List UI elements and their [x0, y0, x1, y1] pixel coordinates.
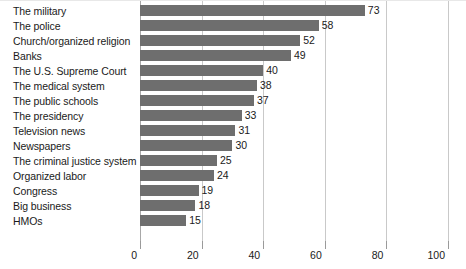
x-tick-label: 100 [427, 249, 448, 261]
x-tick-mark-80 [386, 241, 387, 249]
x-tick-mark-20 [202, 241, 203, 249]
bar [140, 140, 232, 151]
bar [140, 80, 257, 91]
bar [140, 125, 235, 136]
bar [140, 50, 291, 61]
bar [140, 35, 300, 46]
bar-row: 19 [140, 184, 448, 199]
x-axis: 020406080100 [140, 241, 448, 269]
x-tick-mark-0 [140, 241, 141, 249]
x-tick-mark-100 [448, 241, 449, 249]
category-label: HMOs [13, 214, 136, 229]
x-tick-mark-60 [325, 241, 326, 249]
category-label: The criminal justice system [13, 154, 136, 169]
bar-row: 52 [140, 34, 448, 49]
bar-value-label: 38 [257, 79, 272, 92]
category-label: Television news [13, 124, 136, 139]
bar [140, 200, 195, 211]
bar-row: 24 [140, 169, 448, 184]
bar-value-label: 73 [365, 4, 380, 17]
bar-value-label: 19 [199, 184, 214, 197]
plot-area: 735852494038373331302524191815 [140, 1, 448, 241]
category-label: Church/organized religion [13, 34, 136, 49]
category-label: Organized labor [13, 169, 136, 184]
bar [140, 65, 263, 76]
bar-row: 40 [140, 64, 448, 79]
bar-row: 18 [140, 199, 448, 214]
category-label: The police [13, 19, 136, 34]
bar [140, 5, 365, 16]
category-label: Banks [13, 49, 136, 64]
category-label: The military [13, 4, 136, 19]
bar [140, 170, 214, 181]
bar-value-label: 37 [254, 94, 269, 107]
bar-row: 58 [140, 19, 448, 34]
bar [140, 95, 254, 106]
bar-value-label: 52 [300, 34, 315, 47]
category-label: The public schools [13, 94, 136, 109]
bar-row: 33 [140, 109, 448, 124]
bar-row: 37 [140, 94, 448, 109]
bar-value-label: 15 [186, 214, 201, 227]
bar-value-label: 24 [214, 169, 229, 182]
bar [140, 185, 199, 196]
bar [140, 110, 242, 121]
bar [140, 215, 186, 226]
bar-row: 73 [140, 4, 448, 19]
bar-row: 25 [140, 154, 448, 169]
bar-row: 31 [140, 124, 448, 139]
x-tick-label: 60 [310, 249, 325, 261]
bar-value-label: 58 [319, 19, 334, 32]
x-tick-label: 80 [372, 249, 387, 261]
bar-value-label: 31 [235, 124, 250, 137]
category-label: The medical system [13, 79, 136, 94]
category-label: Newspapers [13, 139, 136, 154]
bar-value-label: 30 [232, 139, 247, 152]
x-tick-label: 20 [187, 249, 202, 261]
bar-row: 15 [140, 214, 448, 229]
bar-value-label: 25 [217, 154, 232, 167]
bar-value-label: 49 [291, 49, 306, 62]
bar [140, 155, 217, 166]
x-tick-label: 0 [131, 249, 140, 261]
category-label: Big business [13, 199, 136, 214]
bar-row: 30 [140, 139, 448, 154]
bar-value-label: 33 [242, 109, 257, 122]
category-label-column: The militaryThe policeChurch/organized r… [0, 1, 136, 241]
bar-row: 38 [140, 79, 448, 94]
bar-chart: The militaryThe policeChurch/organized r… [0, 0, 466, 269]
category-label: The presidency [13, 109, 136, 124]
bar [140, 20, 319, 31]
bar-value-label: 18 [195, 199, 210, 212]
x-tick-mark-40 [263, 241, 264, 249]
bar-value-label: 40 [263, 64, 278, 77]
gridline-100 [448, 1, 449, 241]
category-label: The U.S. Supreme Court [13, 64, 136, 79]
category-label: Congress [13, 184, 136, 199]
x-tick-label: 40 [249, 249, 264, 261]
bar-row: 49 [140, 49, 448, 64]
